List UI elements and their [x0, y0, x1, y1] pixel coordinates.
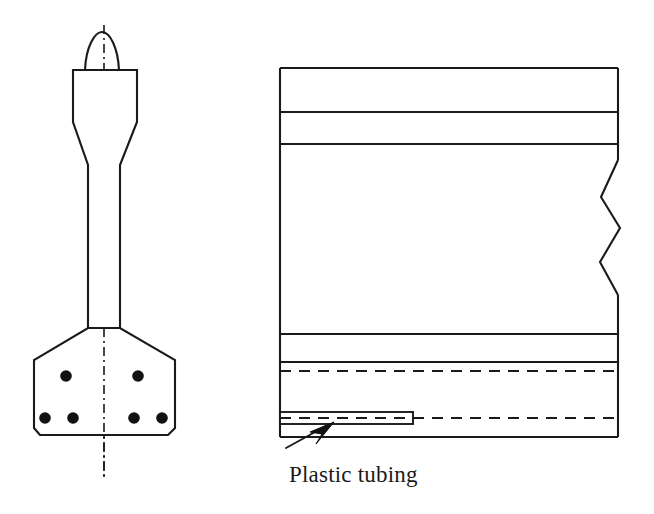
plastic-tubing-label: Plastic tubing — [289, 461, 418, 489]
left-view-anchor-head — [34, 25, 175, 478]
slab-body-fill — [280, 68, 620, 437]
drawing-canvas — [0, 0, 654, 514]
technical-drawing-figure: Plastic tubing — [0, 0, 654, 514]
anchor-loop-arch — [85, 32, 119, 70]
bolt-hole — [132, 370, 144, 382]
bolt-hole — [39, 412, 51, 424]
bolt-hole — [67, 412, 79, 424]
anchor-head-outline — [73, 70, 137, 328]
bolt-hole — [156, 412, 168, 424]
bolt-hole — [128, 412, 140, 424]
bolt-hole — [60, 370, 72, 382]
right-view-slab-section — [280, 68, 620, 448]
